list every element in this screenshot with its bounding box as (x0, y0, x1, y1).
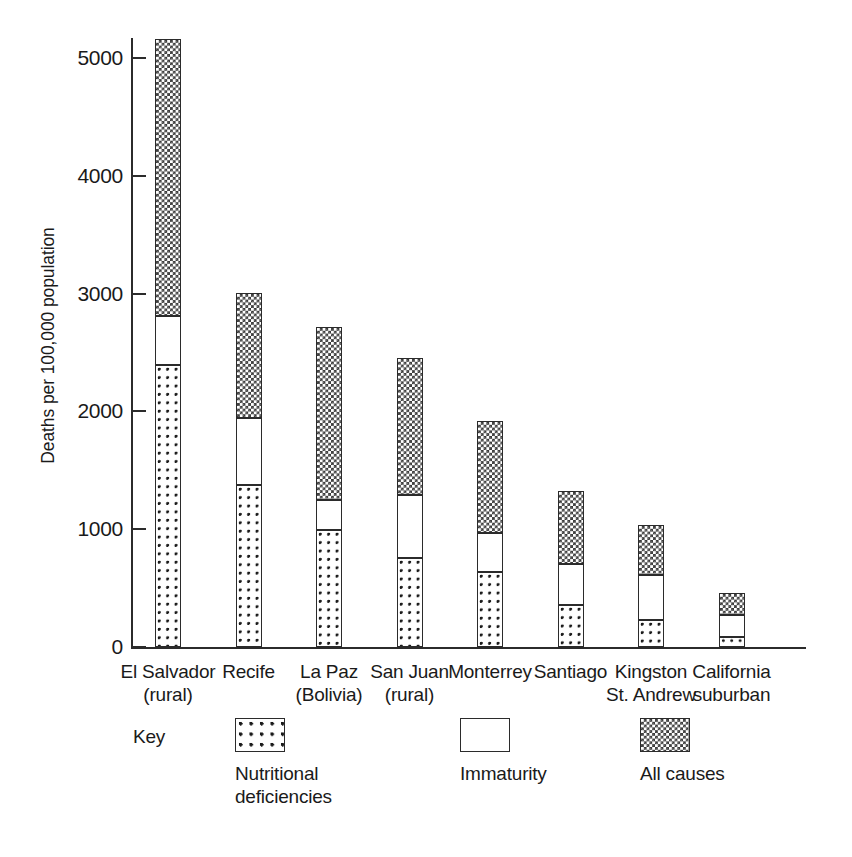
category-label-line2: suburban (657, 683, 807, 706)
bar-segment-checker (638, 525, 664, 575)
bar-segment-plain (397, 495, 423, 558)
legend-label-line2: deficiencies (235, 785, 445, 808)
bar-segment-dots (316, 530, 342, 647)
bar-2 (236, 0, 262, 647)
legend-label-1: Nutritionaldeficiencies (235, 762, 445, 808)
bar-segment-plain (316, 500, 342, 530)
legend-entry-3: All causes (640, 718, 850, 785)
bar-segment-checker (558, 491, 584, 564)
bar-segment-dots (155, 365, 181, 647)
bar-7 (638, 0, 664, 647)
legend-title: Key (133, 726, 165, 748)
category-label-8: Californiasuburban (657, 660, 807, 706)
bar-6 (558, 0, 584, 647)
legend-swatch-checker (640, 718, 690, 752)
category-label-line2: (rural) (93, 683, 243, 706)
legend-label-line1: Nutritional (235, 763, 318, 784)
bar-segment-plain (236, 418, 262, 485)
legend-swatch-plain (460, 718, 510, 752)
bar-segment-dots (638, 620, 664, 647)
legend-label-line1: All causes (640, 763, 725, 784)
bar-8 (719, 0, 745, 647)
bar-5 (477, 0, 503, 647)
legend-entry-2: Immaturity (460, 718, 670, 785)
bar-segment-checker (397, 358, 423, 495)
stacked-bar-chart-figure: 010002000300040005000 Deaths per 100,000… (0, 0, 852, 857)
bar-segment-dots (236, 485, 262, 647)
chart-legend: Key NutritionaldeficienciesImmaturityAll… (0, 718, 852, 848)
category-label-line1: California (692, 661, 770, 682)
bar-segment-dots (719, 637, 745, 647)
legend-entry-1: Nutritionaldeficiencies (235, 718, 445, 808)
bars-container (0, 0, 852, 649)
legend-label-line1: Immaturity (460, 763, 547, 784)
bar-segment-checker (316, 327, 342, 500)
bar-3 (316, 0, 342, 647)
bar-segment-plain (558, 564, 584, 605)
bar-segment-plain (155, 316, 181, 365)
bar-segment-dots (477, 572, 503, 647)
bar-segment-checker (236, 293, 262, 418)
bar-segment-checker (477, 421, 503, 533)
bar-segment-plain (477, 533, 503, 572)
plot-area: 010002000300040005000 Deaths per 100,000… (0, 0, 852, 680)
bar-segment-plain (638, 575, 664, 620)
legend-swatch-dots (235, 718, 285, 752)
legend-label-2: Immaturity (460, 762, 670, 785)
bar-segment-checker (719, 593, 745, 615)
bar-1 (155, 0, 181, 647)
bar-segment-plain (719, 615, 745, 637)
bar-segment-dots (558, 605, 584, 647)
bar-segment-dots (397, 558, 423, 647)
bar-4 (397, 0, 423, 647)
legend-label-3: All causes (640, 762, 850, 785)
category-label-line2: (rural) (335, 683, 485, 706)
bar-segment-checker (155, 39, 181, 316)
